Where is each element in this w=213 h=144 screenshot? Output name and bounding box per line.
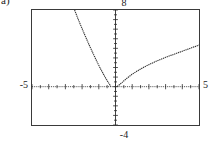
figure-part-label: a) [1,0,10,6]
plot-canvas [32,10,199,125]
calculator-viewport-frame [31,9,200,126]
window-ymax-label: 8 [109,0,139,8]
plot-area [32,10,199,125]
calculator-screenshot: a) 8 -4 -5 5 [0,0,213,144]
function-curve [75,10,199,86]
window-xmin-label: -5 [8,80,28,90]
window-xmax-label: 5 [203,80,213,90]
y-axis [113,10,118,125]
window-ymin-label: -4 [109,130,139,140]
